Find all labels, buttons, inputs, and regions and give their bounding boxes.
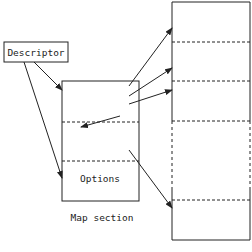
options-label: Options — [80, 173, 120, 184]
memory-box — [172, 2, 250, 240]
diagram-canvas: Descriptor Options Map section — [0, 0, 252, 252]
descriptor-box: Descriptor — [4, 42, 68, 62]
arrow-descriptor-to-map-options — [24, 62, 62, 178]
map-section-box: Options — [62, 81, 139, 201]
arrow-descriptor-to-map-top — [34, 62, 62, 90]
descriptor-arrows — [24, 62, 62, 178]
map-section-caption: Map section — [71, 212, 134, 223]
arrow-map-to-memory-1 — [129, 28, 172, 86]
descriptor-label: Descriptor — [7, 47, 64, 58]
arrow-map-to-memory-4 — [129, 150, 172, 208]
